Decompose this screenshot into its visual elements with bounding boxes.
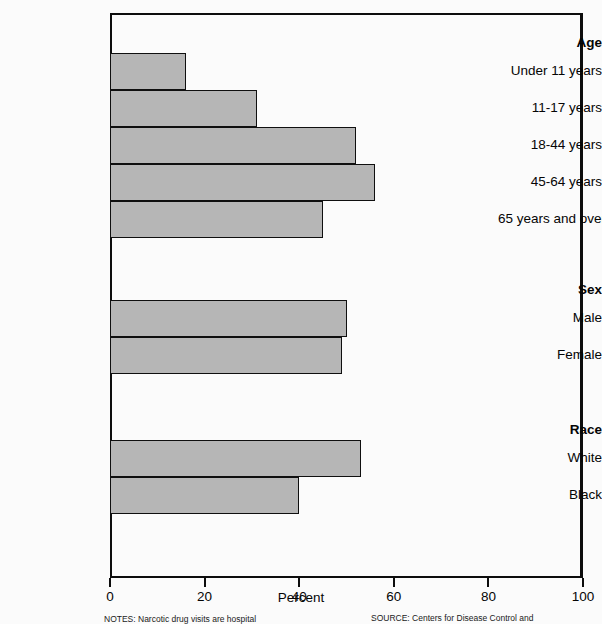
x-axis-title: Percent	[0, 590, 602, 605]
source-footnote: SOURCE: Centers for Disease Control and	[371, 613, 596, 623]
x-axis-tick-0	[109, 578, 111, 587]
x-axis-tick-100	[582, 578, 584, 587]
x-axis-tick-60	[393, 578, 395, 587]
category-label-under-11-years: Under 11 years	[498, 64, 602, 78]
category-label-white: White	[498, 451, 602, 465]
category-label-11-17-years: 11-17 years	[498, 101, 602, 115]
category-label-45-64-years: 45-64 years	[498, 175, 602, 189]
group-label-sex: Sex	[498, 283, 602, 297]
category-label-65-years-and-over: 65 years and over	[498, 212, 602, 226]
category-label-male: Male	[498, 311, 602, 325]
x-axis-tick-80	[487, 578, 489, 587]
category-label-18-44-years: 18-44 years	[498, 138, 602, 152]
x-axis-tick-40	[298, 578, 300, 587]
notes-footnote: NOTES: Narcotic drug visits are hospital	[104, 614, 319, 624]
x-axis-tick-20	[204, 578, 206, 587]
group-label-age: Age	[498, 36, 602, 50]
category-label-female: Female	[498, 348, 602, 362]
category-label-black: Black	[498, 488, 602, 502]
bar-chart: Age Under 11 years 11-17 years 18-44 yea…	[0, 0, 602, 624]
group-label-race: Race	[498, 423, 602, 437]
